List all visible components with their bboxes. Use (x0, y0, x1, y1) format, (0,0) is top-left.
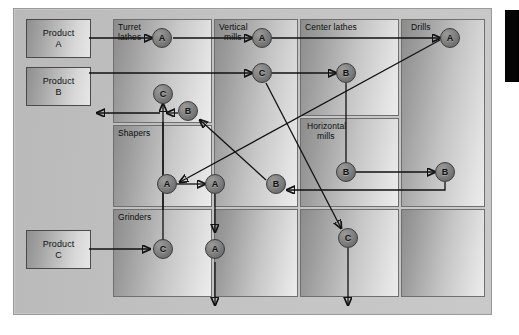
dept-label-line1: Turret (118, 22, 141, 32)
dept-label-line2: lathes (118, 32, 141, 42)
machine-node-vertical-mid-a[interactable]: A (205, 174, 225, 194)
dept-label-line1: Grinders (118, 212, 151, 222)
department-horizontal-mills-lower (300, 209, 399, 297)
node-label: C (160, 89, 167, 99)
node-label: A (447, 33, 454, 43)
right-edge-black-bar (505, 10, 519, 82)
department-label-horizontal-mills: Horizontal mills (307, 121, 346, 141)
node-label: A (212, 179, 219, 189)
machine-node-center-b[interactable]: B (336, 63, 356, 83)
department-vertical-mills (214, 19, 298, 207)
product-label-line2: B (43, 87, 75, 98)
dept-label-line1: Horizontal (307, 121, 346, 131)
department-vertical-mills-lower (214, 209, 298, 297)
product-box-c: Product C (26, 230, 91, 269)
node-label: A (259, 33, 266, 43)
product-label-line1: Product (43, 239, 75, 250)
machine-node-turret-a[interactable]: A (152, 28, 172, 48)
department-label-vertical-mills: Vertical mills (219, 22, 248, 42)
machine-node-vertical-b[interactable]: B (266, 174, 286, 194)
product-label-line2: C (43, 250, 75, 261)
machine-node-shapers-a[interactable]: A (157, 174, 177, 194)
dept-label-line1: Vertical (219, 22, 248, 32)
dept-label-line1: Drills (411, 22, 430, 32)
product-box-a: Product A (26, 19, 91, 58)
product-box-b: Product B (26, 67, 91, 106)
department-label-drills: Drills (411, 22, 430, 32)
dept-label-line2: mills (224, 32, 242, 42)
node-label: A (212, 244, 219, 254)
dept-label-line1: Center lathes (305, 22, 357, 32)
machine-node-horizontal-lower-c[interactable]: C (338, 228, 358, 248)
machine-node-turret-b[interactable]: B (178, 101, 198, 121)
machine-node-vertical-c[interactable]: C (252, 63, 272, 83)
node-label: A (164, 179, 171, 189)
machine-node-vertical-lower-a[interactable]: A (205, 239, 225, 259)
node-label: C (345, 233, 352, 243)
department-label-shapers: Shapers (118, 128, 150, 138)
machine-node-grinders-c[interactable]: C (153, 239, 173, 259)
node-label: C (259, 68, 266, 78)
node-label: A (159, 33, 166, 43)
machine-node-turret-c[interactable]: C (153, 84, 173, 104)
machine-node-horizontal-b[interactable]: B (336, 162, 356, 182)
node-label: B (343, 167, 350, 177)
machine-node-drills-b[interactable]: B (435, 162, 455, 182)
node-label: C (160, 244, 167, 254)
node-label: B (185, 106, 192, 116)
machine-node-vertical-a[interactable]: A (252, 28, 272, 48)
product-label-line1: Product (43, 28, 75, 39)
dept-label-line2: mills (317, 131, 335, 141)
department-drills-lower (401, 209, 485, 297)
node-label: B (273, 179, 280, 189)
dept-label-line1: Shapers (118, 128, 150, 138)
department-label-grinders: Grinders (118, 212, 151, 222)
product-label-line2: A (43, 39, 75, 50)
department-label-center-lathes: Center lathes (305, 22, 357, 32)
department-label-turret-lathes: Turret lathes (118, 22, 141, 42)
node-label: B (442, 167, 449, 177)
node-label: B (343, 68, 350, 78)
product-label-line1: Product (43, 76, 75, 87)
machine-node-drills-a[interactable]: A (440, 28, 460, 48)
